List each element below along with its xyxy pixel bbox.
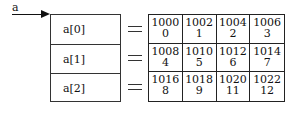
cell-address: 1014 [250,46,284,57]
arrow-head-icon [41,10,50,18]
row-pointer-array: a[0] a[1] a[2] [50,14,121,102]
cell-value: 4 [149,57,182,68]
cell-value: 7 [250,57,284,68]
cell-value: 5 [183,57,216,68]
cell-value: 11 [217,85,250,96]
pointer-label: a [12,2,19,13]
cell-value: 3 [250,28,284,39]
cell-address: 1010 [183,46,216,57]
pointer-arrow-line [12,14,43,15]
grid-cell: 10189 [183,72,217,101]
equals-sign-0 [128,26,142,32]
grid-cell: 10105 [183,44,217,73]
equals-sign-2 [128,84,142,90]
grid-cell: 10042 [217,15,251,44]
row-label-0: a[0] [51,15,120,44]
row-label-2: a[2] [51,73,120,102]
cell-address: 1012 [217,46,250,57]
cell-value: 0 [149,28,182,39]
cell-address: 1008 [149,46,182,57]
grid-cell: 10084 [149,44,183,73]
grid-cell: 10168 [149,72,183,101]
cell-value: 6 [217,57,250,68]
grid-cell: 10126 [217,44,251,73]
grid-cell: 10063 [250,15,284,44]
cell-value: 1 [183,28,216,39]
cell-value: 8 [149,85,182,96]
grid-cell: 10147 [250,44,284,73]
grid-cell: 10021 [183,15,217,44]
memory-grid: 10000 10021 10042 10063 10084 10105 1012… [148,14,285,102]
grid-cell: 10000 [149,15,183,44]
cell-value: 2 [217,28,250,39]
equals-sign-1 [128,55,142,61]
cell-value: 12 [250,85,284,96]
cell-value: 9 [183,85,216,96]
row-label-1: a[1] [51,44,120,73]
grid-cell: 102212 [250,72,284,101]
grid-cell: 102011 [217,72,251,101]
